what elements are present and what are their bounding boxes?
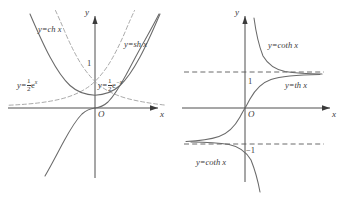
chart-panel-left: y x O 1 y=ch x y=sh x y=12ex y=12e−x: [0, 0, 172, 200]
left-y-axis: [92, 16, 97, 178]
half-exp-x-exponent: x: [35, 79, 38, 85]
left-tick-label-one: 1: [87, 59, 91, 68]
right-chart-svg: [172, 0, 343, 200]
right-curve-tanh-label: y=th x: [285, 81, 307, 90]
left-curve-sinh-label: y=sh x: [124, 40, 147, 49]
right-curve-coth-upper-label: y=coth x: [268, 41, 298, 50]
left-axis-y-label: y: [85, 8, 89, 17]
left-x-axis: [8, 105, 158, 110]
right-axis-y-label: y: [235, 8, 239, 17]
left-curve-half-exp-minus-x-label: y=12e−x: [98, 78, 122, 94]
hyperbolic-functions-figure: y x O 1 y=ch x y=sh x y=12ex y=12e−x: [0, 0, 343, 200]
half-exp-minus-x-prefix: y=: [98, 80, 108, 90]
half-exp-minus-x-fraction: 12: [108, 78, 112, 94]
right-tick-label-negative-one: −1: [246, 146, 255, 155]
right-origin-label: O: [248, 110, 255, 119]
left-curve-cosh-label: y=ch x: [38, 25, 61, 34]
half-exp-minus-x-exponent: −x: [116, 79, 122, 85]
chart-panel-right: y x O 1 −1 y=coth x y=th x y=coth x: [172, 0, 343, 200]
half-exp-x-fraction: 12: [27, 78, 31, 94]
left-curve-half-exp-x-label: y=12ex: [17, 78, 37, 94]
left-chart-svg: [0, 0, 172, 200]
right-curve-coth-lower-label: y=coth x: [196, 158, 226, 167]
right-x-axis: [182, 105, 330, 110]
left-axis-x-label: x: [160, 110, 164, 119]
right-y-axis: [242, 16, 247, 182]
left-origin-label: O: [98, 110, 105, 119]
right-tick-label-one: 1: [248, 77, 252, 86]
half-exp-x-prefix: y=: [17, 80, 27, 90]
right-axis-x-label: x: [332, 110, 336, 119]
